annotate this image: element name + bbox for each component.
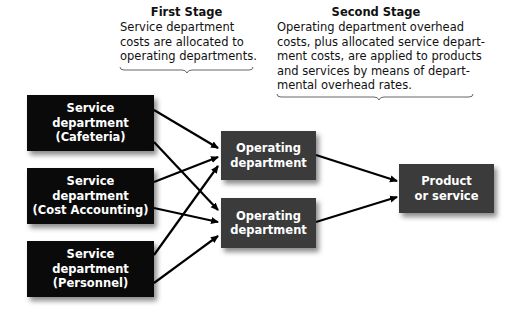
box-label: Product xyxy=(421,174,472,189)
box-label: department xyxy=(230,223,307,238)
box-label: department xyxy=(52,189,129,204)
product-or-service: Product or service xyxy=(399,164,494,213)
second-stage-line: costs, plus allocated service depart- xyxy=(277,35,485,50)
second-stage-line: mental overhead rates. xyxy=(277,78,485,93)
second-stage-title: Second Stage xyxy=(277,5,475,19)
second-stage-line: and services by means of depart- xyxy=(277,64,485,79)
box-label: department xyxy=(230,156,307,171)
second-stage-line: Operating department overhead xyxy=(277,20,485,35)
second-stage-line: ment costs, are applied to products xyxy=(277,49,485,64)
first-stage-line: Service department xyxy=(120,20,257,35)
service-department-personnel: Service department (Personnel) xyxy=(27,241,154,297)
operating-department-2: Operating department xyxy=(221,198,316,248)
service-department-cafeteria: Service department (Cafeteria) xyxy=(27,95,154,151)
box-label: or service xyxy=(415,189,479,204)
box-label: (Cost Accounting) xyxy=(33,203,149,218)
service-department-cost-accounting: Service department (Cost Accounting) xyxy=(27,168,154,224)
box-label: (Personnel) xyxy=(53,276,128,291)
first-stage-description: Service department costs are allocated t… xyxy=(120,20,257,64)
box-label: Service xyxy=(67,174,115,189)
box-label: department xyxy=(52,262,129,277)
first-stage-brace xyxy=(120,67,253,73)
box-label: (Cafeteria) xyxy=(55,130,125,145)
box-label: Operating xyxy=(236,141,301,156)
first-stage-line: costs are allocated to xyxy=(120,35,257,50)
first-stage-line: operating departments. xyxy=(120,49,257,64)
operating-department-1: Operating department xyxy=(221,131,316,180)
box-label: department xyxy=(52,116,129,131)
box-label: Service xyxy=(67,101,115,116)
second-stage-description: Operating department overhead costs, plu… xyxy=(277,20,485,93)
box-label: Service xyxy=(67,247,115,262)
first-stage-title: First Stage xyxy=(120,5,253,19)
box-label: Operating xyxy=(236,209,301,224)
second-stage-brace xyxy=(277,94,473,100)
